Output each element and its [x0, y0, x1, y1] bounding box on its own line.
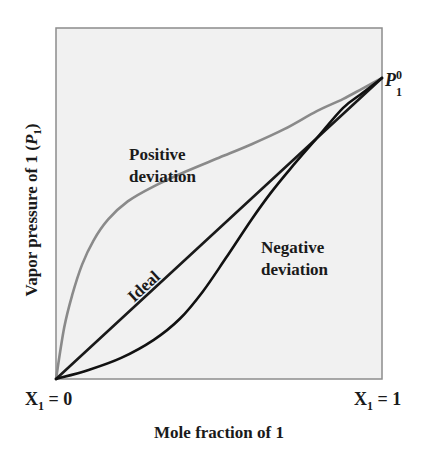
plot-area: [56, 28, 382, 379]
x-tick-label-1: X1 = 1: [354, 389, 401, 413]
vapor-pressure-chart: Positive deviation Ideal Negative deviat…: [0, 0, 429, 451]
x-axis-label: Mole fraction of 1: [154, 423, 284, 442]
y-axis-label: Vapor pressure of 1 (P1): [22, 123, 43, 296]
endpoint-label-p1-0: P10: [384, 68, 402, 99]
x-tick-label-0: X1 = 0: [25, 389, 72, 413]
